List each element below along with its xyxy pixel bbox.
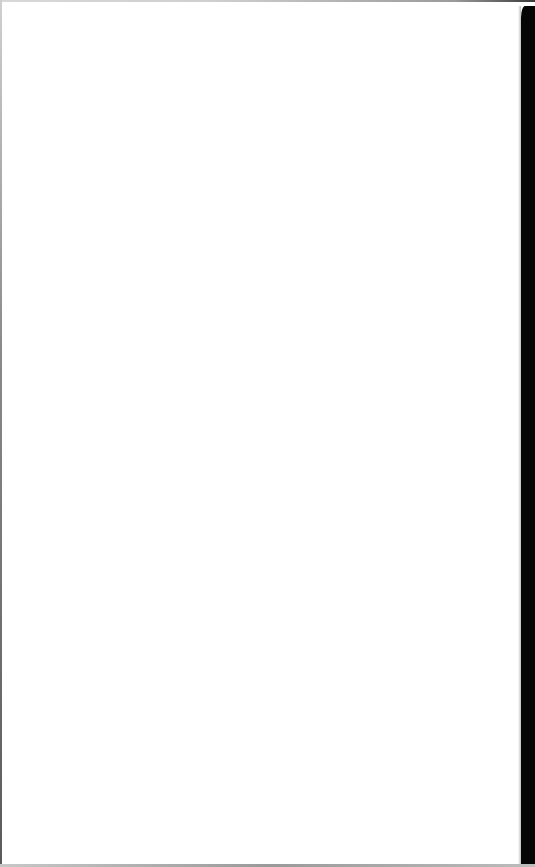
blank-window	[0, 0, 535, 867]
blank-page-content	[2, 2, 520, 864]
right-window-edge	[521, 6, 535, 867]
